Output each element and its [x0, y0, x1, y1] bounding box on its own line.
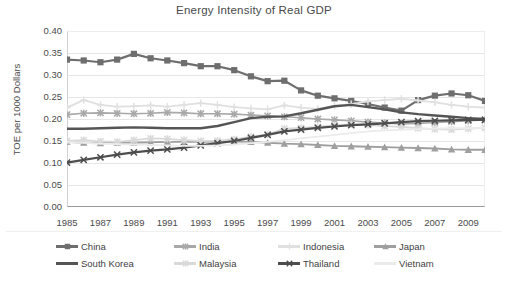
legend-swatch-icon	[374, 245, 396, 248]
series-india	[67, 109, 485, 128]
x-tick-2007: 2007	[418, 217, 452, 228]
data-point-plus	[281, 102, 288, 109]
data-point-square	[432, 93, 438, 99]
legend-label: South Korea	[81, 258, 134, 269]
x-tick-2005: 2005	[384, 217, 418, 228]
data-point-plus	[197, 100, 204, 107]
legend-item-malaysia[interactable]: Malaysia	[174, 258, 237, 269]
x-tick-1985: 1985	[50, 217, 84, 228]
x-tick-1987: 1987	[83, 217, 117, 228]
y-tick-0.05: 0.05	[30, 179, 62, 190]
data-point-star	[164, 135, 171, 142]
data-point-triangle	[382, 243, 388, 249]
x-tick-1997: 1997	[251, 217, 285, 228]
y-tick-0.10: 0.10	[30, 157, 62, 168]
data-point-star	[130, 137, 137, 144]
data-point-square	[248, 73, 254, 79]
chart-title: Energy Intensity of Real GDP	[0, 4, 508, 16]
data-point-square	[448, 90, 454, 96]
data-point-plus	[286, 243, 292, 249]
legend-item-indonesia[interactable]: Indonesia	[278, 241, 344, 252]
legend-swatch-icon	[278, 245, 300, 248]
x-tick-2009: 2009	[451, 217, 485, 228]
data-point-plus	[264, 106, 271, 113]
data-point-cross	[182, 243, 188, 249]
x-tick-1991: 1991	[150, 217, 184, 228]
data-point-plus	[247, 105, 254, 112]
data-point-plus	[180, 101, 187, 108]
y-tick-0.15: 0.15	[30, 135, 62, 146]
legend-label: Thailand	[303, 258, 339, 269]
data-point-plus	[231, 104, 238, 111]
legend-swatch-icon	[56, 262, 78, 265]
data-point-cross	[147, 110, 154, 117]
y-tick-0.20: 0.20	[30, 113, 62, 124]
data-point-star	[147, 135, 154, 142]
data-point-square	[114, 57, 120, 63]
y-axis-title: TOE per 1000 Dollars	[11, 40, 22, 180]
y-tick-0.35: 0.35	[30, 47, 62, 58]
data-point-square	[67, 57, 70, 63]
data-point-star	[448, 126, 455, 133]
data-point-plus	[114, 103, 121, 110]
legend-item-china[interactable]: China	[56, 241, 106, 252]
chart-legend: ChinaIndiaIndonesiaJapanSouth KoreaMalay…	[56, 238, 456, 272]
legend-item-thailand[interactable]: Thailand	[278, 258, 339, 269]
data-point-star	[182, 260, 188, 266]
legend-row: ChinaIndiaIndonesiaJapan	[56, 238, 456, 255]
data-point-square	[148, 55, 154, 61]
y-tick-0.40: 0.40	[30, 25, 62, 36]
data-point-cross	[114, 110, 121, 117]
data-point-square	[181, 60, 187, 66]
data-point-square	[81, 57, 87, 63]
data-point-plus	[147, 102, 154, 109]
series-china	[67, 51, 485, 114]
data-point-square	[281, 78, 287, 84]
x-tick-1999: 1999	[284, 217, 318, 228]
data-point-cross	[97, 109, 104, 116]
data-point-plus	[448, 101, 455, 108]
legend-label: Malaysia	[199, 258, 237, 269]
data-point-square	[214, 63, 220, 69]
data-point-cross	[314, 115, 321, 122]
y-tick-0.00: 0.00	[30, 201, 62, 212]
legend-swatch-icon	[278, 262, 300, 265]
legend-swatch-icon	[174, 245, 196, 248]
x-tick-1993: 1993	[184, 217, 218, 228]
legend-item-india[interactable]: India	[174, 241, 220, 252]
data-point-square	[65, 243, 70, 248]
data-point-plus	[97, 101, 104, 108]
data-point-plus	[381, 96, 388, 103]
data-point-cross	[80, 110, 87, 117]
data-point-cross	[130, 110, 137, 117]
data-point-plus	[297, 104, 304, 111]
legend-item-vietnam[interactable]: Vietnam	[374, 258, 434, 269]
data-point-square	[97, 59, 103, 65]
legend-swatch-icon	[174, 262, 196, 265]
data-point-cross	[67, 111, 71, 118]
data-point-square	[198, 63, 204, 69]
data-point-plus	[80, 96, 87, 103]
x-tick-1989: 1989	[117, 217, 151, 228]
data-point-square	[331, 95, 337, 101]
data-point-cross	[214, 110, 221, 117]
data-point-square	[298, 87, 304, 93]
legend-item-south-korea[interactable]: South Korea	[56, 258, 134, 269]
data-point-square	[164, 57, 170, 63]
x-tick-1995: 1995	[217, 217, 251, 228]
data-point-square	[265, 78, 271, 84]
data-point-star	[180, 137, 187, 144]
legend-label: India	[199, 241, 220, 252]
data-point-plus	[214, 101, 221, 108]
y-tick-0.25: 0.25	[30, 91, 62, 102]
data-point-plus	[130, 103, 137, 110]
data-point-x	[287, 260, 292, 265]
x-axis-tick-labels: 1985198719891991199319951997199920012003…	[67, 217, 485, 231]
legend-item-japan[interactable]: Japan	[374, 241, 425, 252]
legend-label: China	[81, 241, 106, 252]
data-point-cross	[180, 109, 187, 116]
plot-area	[67, 31, 485, 207]
data-point-plus	[465, 103, 472, 110]
legend-swatch-icon	[374, 262, 396, 265]
data-point-plus	[67, 104, 71, 111]
